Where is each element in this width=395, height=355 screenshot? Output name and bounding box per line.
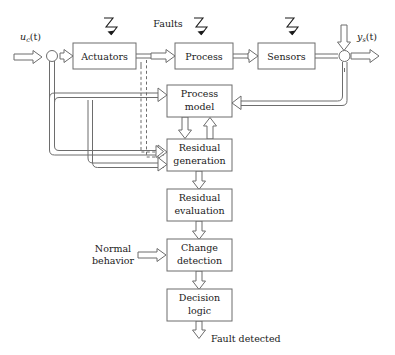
input-signal-arrow (14, 51, 42, 64)
input-summing-junction (47, 51, 58, 62)
block-decision-logic[interactable]: Decision logic (167, 289, 232, 321)
fault-detected-label: Fault detected (211, 333, 281, 344)
normal-behavior-line1: Normal (95, 243, 131, 254)
arrow-process-to-sensors (233, 50, 258, 63)
process-model-label-line2: model (185, 101, 214, 112)
residual-evaluation-label-line2: evaluation (174, 205, 224, 216)
arrowhead-input-to-residual-lower (158, 158, 167, 172)
output-signal-label: ys(t) (356, 31, 377, 44)
fault-actuators-icon (104, 18, 117, 35)
block-process-model[interactable]: Process model (167, 85, 232, 117)
output-signal-arrow (351, 50, 379, 63)
block-actuators[interactable]: Actuators (73, 43, 136, 69)
dashed-actuator-signal (141, 60, 164, 158)
output-signal-arg: (t) (366, 31, 377, 42)
arrow-normal-behavior-to-change (138, 249, 166, 262)
arrowhead-input-to-process-model (158, 88, 167, 102)
block-change-detection[interactable]: Change detection (167, 239, 232, 271)
normal-behavior-label: Normal behavior (92, 243, 135, 266)
actuators-label: Actuators (80, 51, 128, 62)
change-detection-label-line1: Change (181, 242, 218, 253)
decision-logic-label-line2: logic (188, 305, 211, 316)
arrow-residual-to-process-model (204, 118, 217, 140)
normal-behavior-line2: behavior (92, 255, 135, 266)
block-sensors[interactable]: Sensors (258, 43, 315, 69)
line-sensors-to-output-junction (315, 54, 338, 58)
fault-sensors-icon (285, 18, 298, 35)
change-detection-label-line2: detection (177, 255, 222, 266)
input-signal-label: uc(t) (20, 31, 41, 44)
svg-text:uc(t): uc(t) (20, 31, 41, 44)
arrow-residual-gen-to-eval (193, 171, 206, 190)
process-model-label-line1: Process (181, 88, 218, 99)
sensors-label: Sensors (267, 51, 305, 62)
block-residual-generation[interactable]: Residual generation (167, 139, 232, 171)
arrow-residual-eval-to-change (193, 221, 206, 240)
output-branch-junction (339, 51, 350, 62)
residual-generation-label-line2: generation (173, 155, 225, 166)
arrow-change-to-decision (193, 271, 206, 290)
arrow-decision-to-fault-detected (193, 321, 206, 339)
arrow-actuators-to-process (136, 50, 175, 63)
svg-text:ys(t): ys(t) (356, 31, 377, 44)
block-residual-evaluation[interactable]: Residual evaluation (167, 189, 232, 221)
arrow-junction-to-actuators (60, 50, 73, 63)
arrow-process-model-to-residual (179, 117, 192, 139)
arrowhead-output-to-process-model (232, 96, 241, 110)
fault-process-icon (194, 18, 207, 35)
output-disturbance-arrow (338, 25, 351, 51)
residual-generation-label-line1: Residual (179, 142, 221, 153)
faults-label: Faults (153, 18, 183, 29)
diagram-canvas: Actuators Process Sensors Process model … (0, 0, 395, 355)
residual-evaluation-label-line1: Residual (179, 192, 221, 203)
block-process[interactable]: Process (175, 43, 233, 69)
process-label: Process (185, 51, 222, 62)
fault-detection-diagram: Actuators Process Sensors Process model … (0, 0, 395, 355)
decision-logic-label-line1: Decision (179, 292, 220, 303)
input-signal-arg: (t) (30, 31, 41, 42)
left-feedback-bus (50, 60, 165, 155)
